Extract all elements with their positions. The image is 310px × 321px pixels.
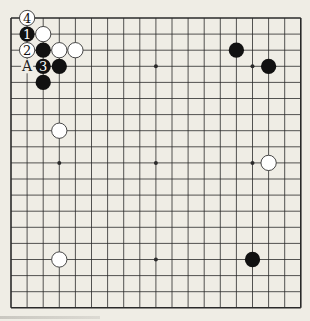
white-stone: [52, 43, 67, 58]
white-stone: [52, 123, 67, 138]
white-stone: [52, 252, 67, 267]
page-shadow-strip: [0, 316, 100, 319]
star-point: [251, 161, 255, 165]
star-point: [154, 161, 158, 165]
move-number-1: 1: [23, 27, 31, 42]
black-stone: [52, 59, 67, 74]
black-stone: [36, 43, 51, 58]
move-number-2: 2: [23, 43, 31, 58]
black-stone: [36, 75, 51, 90]
move-number-4: 4: [23, 11, 31, 26]
point-label-a: A: [21, 58, 33, 74]
black-stone: [229, 43, 244, 58]
black-stone: [261, 59, 276, 74]
move-number-3: 3: [39, 59, 47, 74]
go-board: A4123: [0, 0, 310, 321]
star-point: [154, 258, 158, 262]
white-stone: [68, 43, 83, 58]
star-point: [154, 64, 158, 68]
white-stone: [36, 26, 51, 41]
go-board-diagram: A4123: [0, 0, 310, 321]
white-stone: [261, 155, 276, 170]
star-point: [251, 64, 255, 68]
black-stone: [245, 252, 260, 267]
star-point: [57, 161, 61, 165]
